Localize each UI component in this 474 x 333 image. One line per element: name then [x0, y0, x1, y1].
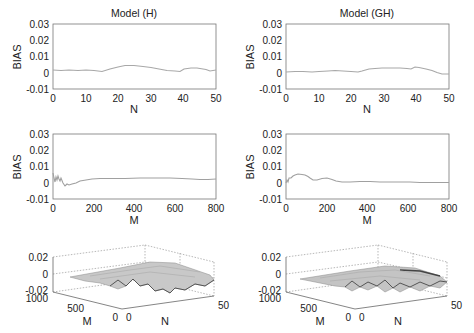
series-line: [53, 66, 216, 72]
svg-text:-0.01: -0.01: [259, 194, 282, 205]
panel-title: Model (H): [111, 7, 157, 19]
x-axis-label: M: [362, 214, 371, 226]
svg-text:30: 30: [145, 93, 157, 104]
surface: [70, 262, 214, 293]
svg-text:0: 0: [275, 269, 281, 280]
svg-text:1000: 1000: [259, 293, 282, 304]
svg-text:0: 0: [359, 312, 365, 323]
series-line: [286, 174, 449, 183]
y-axis-label: BIAS: [11, 154, 23, 179]
z-ticks: 0.02 0 -0.02: [25, 252, 48, 296]
panel-model-gh-n: Model (GH) 0.03 0.02 0.01 0 -0.01 0 10 2…: [244, 7, 455, 115]
y-axis-label: BIAS: [244, 154, 256, 179]
svg-text:0.02: 0.02: [30, 35, 50, 46]
svg-text:0.02: 0.02: [29, 252, 49, 263]
svg-text:0: 0: [43, 68, 49, 79]
z-ticks: 0.02 0 -0.02: [258, 252, 281, 296]
svg-text:10: 10: [313, 93, 325, 104]
svg-text:20: 20: [345, 93, 357, 104]
axes-box: [53, 134, 216, 199]
svg-text:0: 0: [276, 178, 282, 189]
svg-text:0.02: 0.02: [262, 252, 282, 263]
svg-text:0: 0: [126, 312, 132, 323]
svg-text:-0.01: -0.01: [259, 84, 282, 95]
x-axis-label: N: [130, 103, 138, 115]
axes-box: [53, 24, 216, 89]
n-ticks: 0 50: [359, 300, 463, 323]
m-axis-label: M: [315, 315, 324, 327]
svg-text:50: 50: [443, 93, 455, 104]
svg-text:40: 40: [177, 93, 189, 104]
y-ticks: 0.03 0.02 0.01 0 -0.01: [259, 129, 282, 205]
svg-text:0.01: 0.01: [263, 51, 283, 62]
panel-model-h-n: Model (H) 0.03 0.02 0.01 0 -0.01 0 10 20…: [11, 7, 222, 115]
svg-text:500: 500: [300, 303, 317, 314]
m-ticks: 1000 500 0: [26, 293, 119, 323]
svg-text:0.02: 0.02: [263, 145, 283, 156]
axes-box: [286, 24, 449, 89]
n-axis-label: N: [394, 315, 402, 327]
svg-text:0: 0: [50, 203, 56, 214]
svg-text:10: 10: [80, 93, 92, 104]
svg-text:0: 0: [50, 93, 56, 104]
svg-text:0: 0: [283, 203, 289, 214]
surface: [300, 266, 447, 292]
svg-text:0: 0: [112, 312, 118, 323]
svg-text:800: 800: [441, 203, 458, 214]
y-ticks: 0.03 0.02 0.01 0 -0.01: [26, 129, 49, 205]
svg-text:50: 50: [218, 300, 230, 311]
svg-text:-0.01: -0.01: [26, 84, 49, 95]
axes-box: [286, 134, 449, 199]
svg-text:0.02: 0.02: [263, 35, 283, 46]
svg-text:400: 400: [126, 203, 143, 214]
y-ticks: 0.03 0.02 0.01 0 -0.01: [259, 19, 282, 95]
svg-text:800: 800: [208, 203, 225, 214]
n-axis-label: N: [161, 315, 169, 327]
svg-text:0: 0: [42, 269, 48, 280]
svg-text:50: 50: [210, 93, 222, 104]
y-axis-label: BIAS: [244, 44, 256, 69]
panel-3d-model-gh: 0.02 0 -0.02 1000 500 0 0 50 M N: [258, 245, 462, 327]
series-line: [53, 173, 216, 186]
svg-text:0.03: 0.03: [263, 19, 283, 30]
svg-text:30: 30: [378, 93, 390, 104]
svg-text:0.03: 0.03: [30, 19, 50, 30]
x-axis-label: M: [129, 214, 138, 226]
panel-title: Model (GH): [340, 7, 394, 19]
svg-text:0.01: 0.01: [30, 161, 50, 172]
svg-text:0.01: 0.01: [263, 161, 283, 172]
figure: Model (H) 0.03 0.02 0.01 0 -0.01 0 10 20…: [0, 0, 474, 333]
svg-text:-0.01: -0.01: [26, 194, 49, 205]
svg-text:0.02: 0.02: [30, 145, 50, 156]
svg-text:500: 500: [67, 303, 84, 314]
svg-text:0: 0: [283, 93, 289, 104]
m-ticks: 1000 500 0: [259, 293, 352, 323]
svg-text:600: 600: [400, 203, 417, 214]
panel-model-h-m: 0.03 0.02 0.01 0 -0.01 0 200 400 600 800…: [11, 129, 225, 226]
panel-model-gh-m: 0.03 0.02 0.01 0 -0.01 0 200 400 600 800…: [244, 129, 458, 226]
y-ticks: 0.03 0.02 0.01 0 -0.01: [26, 19, 49, 95]
svg-text:0: 0: [345, 312, 351, 323]
svg-text:20: 20: [112, 93, 124, 104]
x-ticks: 0 200 400 600 800: [50, 203, 225, 214]
svg-text:0.01: 0.01: [30, 51, 50, 62]
svg-text:600: 600: [167, 203, 184, 214]
svg-text:40: 40: [410, 93, 422, 104]
svg-text:200: 200: [319, 203, 336, 214]
x-ticks: 0 200 400 600 800: [283, 203, 458, 214]
svg-text:0.03: 0.03: [30, 129, 50, 140]
svg-text:0: 0: [276, 68, 282, 79]
svg-text:50: 50: [451, 300, 463, 311]
svg-text:400: 400: [359, 203, 376, 214]
y-axis-label: BIAS: [11, 44, 23, 69]
svg-text:1000: 1000: [26, 293, 49, 304]
svg-text:0.03: 0.03: [263, 129, 283, 140]
m-axis-label: M: [82, 315, 91, 327]
svg-text:0: 0: [43, 178, 49, 189]
panel-3d-model-h: 0.02 0 -0.02 1000 500 0 0 50 M N: [25, 245, 229, 327]
series-line: [286, 67, 449, 74]
n-ticks: 0 50: [126, 300, 230, 323]
svg-text:200: 200: [86, 203, 103, 214]
x-axis-label: N: [363, 103, 371, 115]
